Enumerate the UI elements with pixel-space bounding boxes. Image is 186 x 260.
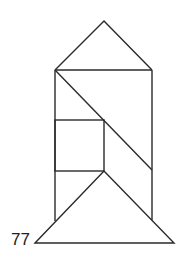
base-triangle [35,171,174,243]
roof-triangle [55,21,152,70]
tangram-figure [0,0,186,260]
figure-number-label: 77 [11,230,30,250]
square [55,120,104,171]
